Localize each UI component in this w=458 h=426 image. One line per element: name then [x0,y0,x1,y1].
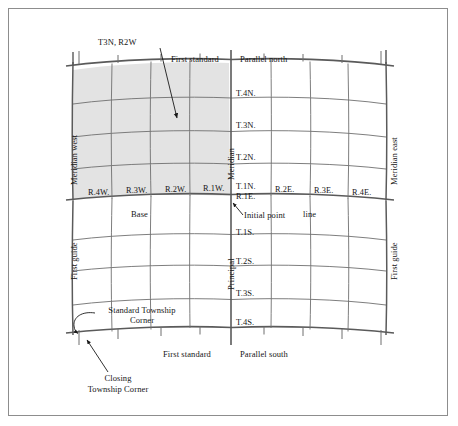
first-guide-meridian-east-line [386,201,387,336]
base-line-label-base: Base [131,210,148,220]
first-standard-north-label: First standard [171,55,219,65]
township-label-t1n: T.1N. [236,182,256,192]
standard-parallel-north-ticks [79,51,381,64]
township-label-t3n: T.3N. [236,121,256,131]
township-label-t1s: T.1S. [236,228,254,238]
first-standard-parallel-north [66,59,394,66]
township-label-t2s: T.2S. [236,257,254,267]
meridian-east-line [386,50,387,201]
closing-township-corner-label-line1: Closing [78,374,158,384]
first-standard-south-label: First standard [163,350,211,360]
figure-canvas: T3N, R2W First standard Parallel north M… [0,0,458,426]
first-guide-east-label: First guide [390,242,400,280]
township-label-t4s: T.4S. [236,318,254,328]
base-line-label-line: line [303,210,316,220]
range-label-r4w: R.4W. [88,188,109,197]
first-guide-west-label: First guide [70,242,80,280]
township-label-t3s: T.3S. [236,289,254,299]
meridian-west-label: Meridian west [70,135,80,185]
closing-township-corner-arrow [87,340,108,372]
plss-diagram-graphic [0,0,458,426]
range-label-r4e: R.4E. [352,188,371,197]
range-label-r2e: R.2E. [275,185,294,194]
closing-township-corner-label-line2: Township Corner [68,385,168,395]
range-label-r2w: R.2W. [165,185,186,194]
parallel-north-label: Parallel north [240,55,287,65]
township-label-t4n: T.4N. [236,89,256,99]
meridian-east-label: Meridian east [390,137,400,185]
first-standard-parallel-south [66,327,394,333]
standard-parallel-south-ticks [79,327,381,346]
standard-township-corner-label-line2: Corner [97,316,187,326]
range-label-r3w: R.3W. [126,186,147,195]
initial-point-callout-arrow [233,203,243,215]
township-label-t2n: T.2N. [236,153,256,163]
range-label-r1w: R.1W. [203,184,224,193]
range-label-r3e: R.3E. [314,186,333,195]
township-range-callout-label: T3N, R2W [98,38,137,48]
parallel-south-label: Parallel south [240,350,288,360]
range-label-r1e: R.1E. [236,192,255,201]
initial-point-label: Initial point [244,211,285,221]
